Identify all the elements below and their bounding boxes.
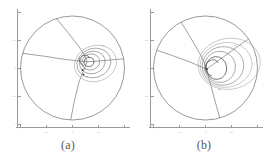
spoke-upper-right: [207, 39, 249, 69]
y-tick-label: -1: [13, 123, 16, 126]
panel-b-axes: -1 -0.5 0 0.5 1 -1 -0.5 0 0.5 1: [144, 9, 263, 134]
y-tick-label: 1: [147, 11, 149, 14]
panel-a-plot: -1 -0.5 0 0.5 1 -1 -0.5 0 0.5 1: [0, 0, 136, 140]
spoke-lower: [71, 62, 87, 120]
y-tick-label: -0.5: [11, 95, 16, 98]
x-tick-label: 0.5: [230, 131, 234, 134]
panel-b-content: q1 q2: [154, 16, 264, 120]
panel-a-axes: -1 -0.5 0 0.5 1 -1 -0.5 0 0.5 1: [11, 9, 130, 134]
point-label: p2: [86, 75, 89, 78]
marked-point: [82, 69, 84, 71]
x-tick-label: 0: [72, 131, 74, 134]
panel-a-content: p1 p2 p3: [21, 16, 125, 120]
x-tick-label: -1: [152, 131, 155, 134]
y-tick-label: 0: [147, 67, 149, 70]
x-tick-label: -0.5: [44, 131, 49, 134]
panel-b: -1 -0.5 0 0.5 1 -1 -0.5 0 0.5 1: [136, 0, 272, 167]
x-tick-label: 1: [124, 131, 126, 134]
y-tick-label: 0.5: [12, 39, 16, 42]
marked-point: [206, 68, 208, 70]
y-tick-label: 0.5: [145, 39, 149, 42]
marked-point: [83, 74, 85, 76]
panel-b-plot: -1 -0.5 0 0.5 1 -1 -0.5 0 0.5 1: [136, 0, 272, 140]
x-tick-label: 0: [205, 131, 207, 134]
unit-circle: [21, 16, 125, 120]
figure-root: -1 -0.5 0 0.5 1 -1 -0.5 0 0.5 1: [0, 0, 272, 167]
spoke-upper-left: [181, 22, 207, 69]
orbit-5: [70, 40, 122, 87]
x-tick-label: 0.5: [97, 131, 101, 134]
point-label: q1: [234, 44, 237, 47]
x-tick-label: -0.5: [177, 131, 182, 134]
y-tick-label: 0: [14, 67, 16, 70]
x-tick-label: -1: [19, 131, 22, 134]
y-tick-label: -0.5: [144, 95, 149, 98]
x-tick-label: 1: [257, 131, 259, 134]
spoke-upper-left: [56, 19, 87, 62]
orbit-3: [76, 48, 108, 77]
panel-a-caption: (a): [0, 138, 136, 153]
point-label: q2: [218, 88, 221, 91]
panel-b-caption: (b): [136, 138, 272, 153]
panel-a: -1 -0.5 0 0.5 1 -1 -0.5 0 0.5 1: [0, 0, 136, 167]
y-tick-label: 1: [14, 11, 16, 14]
y-tick-label: -1: [146, 123, 149, 126]
